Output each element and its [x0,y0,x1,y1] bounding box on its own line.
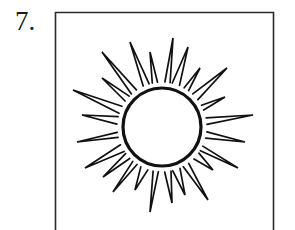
sun-ray [200,146,238,168]
sun-ray [165,171,172,203]
sun-ray [183,163,208,200]
sun-ray [150,171,158,212]
sun-disc [123,88,201,166]
sun-ray [184,68,200,91]
sun-ray [165,38,173,83]
sun-icon [73,38,253,212]
sun-ray [206,115,253,124]
sun-ray [82,115,118,124]
sun-ray [102,52,136,94]
sun-ray [73,90,122,113]
sun-ray [130,42,149,86]
sun-ray [173,168,185,195]
sun-ray [206,132,245,142]
sun-figure [0,0,295,230]
sun-ray [135,167,148,190]
sun-ray [150,52,158,83]
sun-ray [102,78,129,101]
sun-ray [202,97,226,110]
sun-ray [172,47,188,85]
sun-ray [113,161,137,192]
sun-ray [77,132,118,142]
sun-ray [85,145,124,168]
